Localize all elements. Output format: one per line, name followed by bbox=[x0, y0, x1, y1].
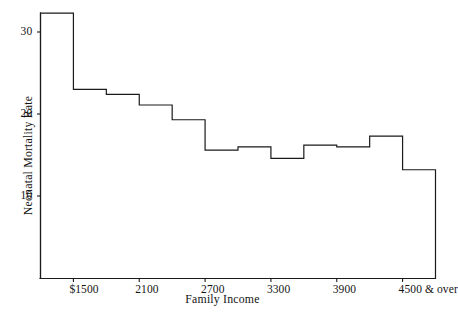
y-axis-title: Neonatal Mortality Rate bbox=[21, 81, 36, 231]
x-axis-title: Family Income bbox=[0, 292, 445, 307]
mortality-step-line bbox=[41, 13, 436, 278]
y-tick-label: 30 bbox=[7, 25, 33, 37]
